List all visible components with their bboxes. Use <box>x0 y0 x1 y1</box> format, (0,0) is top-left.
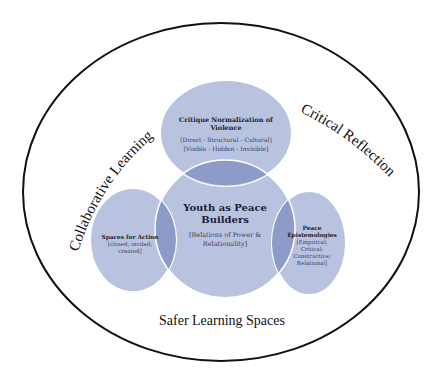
top-detail-line2: [Visible - Hidden - Invisible] <box>184 145 269 152</box>
right-title-line2: Epistemologies <box>287 232 337 239</box>
right-title-line1: Peace <box>303 225 322 231</box>
right-detail-line2: Critical; <box>301 246 324 252</box>
center-subtitle-line1: [Relations of Power & <box>189 231 261 239</box>
right-detail-line1: [Empirical; <box>296 239 327 246</box>
center-title-line1: Youth as Peace <box>182 202 267 213</box>
left-title: Spaces for Action <box>102 234 160 241</box>
top-detail-line1: [Direct - Structural - Cultural] <box>180 136 272 143</box>
center-subtitle-line2: Relationality] <box>203 240 247 248</box>
peacebuilding-diagram: Collaborative Learning Critical Reflecti… <box>0 0 440 381</box>
label-safer-learning-spaces: Safer Learning Spaces <box>159 313 285 328</box>
right-detail-line3: Constructive; <box>293 253 331 259</box>
label-critical-reflection: Critical Reflection <box>299 100 399 179</box>
top-title-line1: Critique Normalization of <box>179 116 274 124</box>
right-detail-line4: Relational] <box>297 260 327 266</box>
left-detail-line2: created] <box>118 248 141 254</box>
center-title-line2: Builders <box>201 214 249 225</box>
top-title-line2: Violence <box>209 124 241 132</box>
left-detail-line1: [closed; invited; <box>108 241 153 247</box>
